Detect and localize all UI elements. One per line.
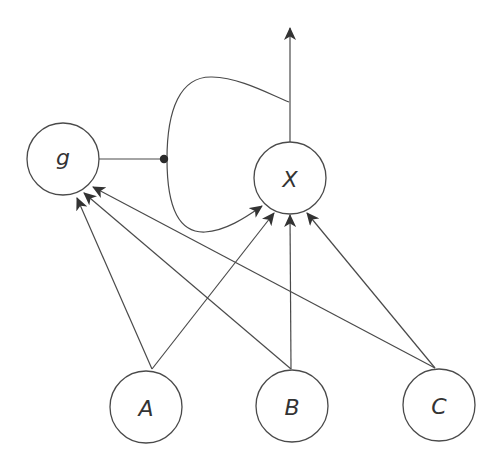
edge-c-to-g <box>93 187 435 368</box>
edge-c-to-x <box>307 213 435 368</box>
edge-b-to-x <box>290 215 291 369</box>
node-g-label: g <box>56 145 70 170</box>
node-b: B <box>256 370 328 442</box>
node-a: A <box>110 371 182 443</box>
node-a-label: A <box>136 396 153 421</box>
causal-diagram: g X A B C <box>0 0 500 474</box>
edge-a-to-g <box>77 198 152 369</box>
node-x: X <box>254 142 326 214</box>
node-b-label: B <box>284 395 299 420</box>
node-x-label: X <box>281 167 298 192</box>
modulator-dot <box>160 155 168 163</box>
node-g: g <box>27 123 99 195</box>
edge-b-to-g <box>84 193 291 369</box>
edge-a-to-x <box>152 213 274 369</box>
node-c: C <box>403 369 475 441</box>
node-c-label: C <box>431 394 447 419</box>
